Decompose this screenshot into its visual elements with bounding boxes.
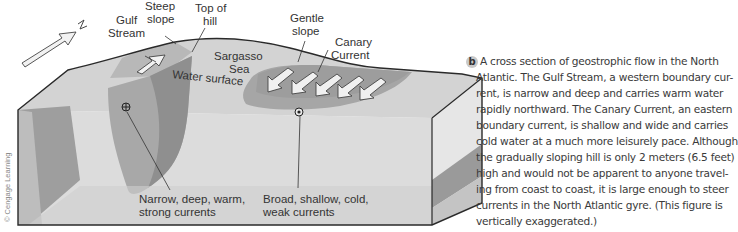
- block-floor-band: [28, 186, 432, 225]
- copyright-credit: © Cengage Learning: [3, 153, 12, 222]
- label-canary-current: CanaryCurrent: [331, 36, 372, 61]
- caption-line: rent, is narrow and deep and carries war…: [466, 85, 698, 101]
- caption-line: the gradually sloping hill is only 2 met…: [466, 149, 698, 165]
- caption-line: currents in the North Atlantic gyre. (Th…: [466, 197, 698, 213]
- label-gentle-slope: Gentleslope: [290, 12, 324, 37]
- caption-line: Atlantic. The Gulf Stream, a western bou…: [466, 69, 698, 85]
- caption-line: bA cross section of geostrophic flow in …: [466, 53, 698, 69]
- figure-caption: bA cross section of geostrophic flow in …: [466, 53, 698, 229]
- label-steep-slope: Steepslope: [145, 0, 175, 25]
- figure-part-badge: b: [466, 56, 478, 68]
- north-symbol: [78, 20, 87, 29]
- label-top-of-hill: Top ofhill: [195, 2, 227, 27]
- ocean-block: [18, 39, 482, 225]
- circle-cross-icon: [122, 103, 130, 111]
- caption-line: rapidly northward. The Canary Current, a…: [466, 101, 698, 117]
- caption-line: vertically exaggerated.): [466, 213, 698, 229]
- label-gulf-stream: GulfStream: [108, 14, 145, 39]
- circle-dot-icon: [295, 108, 303, 116]
- caption-line: high and would not be apparent to anyone…: [466, 165, 698, 181]
- caption-line: boundary current, is shallow and wide an…: [466, 117, 698, 133]
- caption-line: ing from coast to coast, it is large eno…: [466, 181, 698, 197]
- north-arrow: [22, 20, 87, 67]
- caption-line: cold water at a much more leisurely pace…: [466, 133, 698, 149]
